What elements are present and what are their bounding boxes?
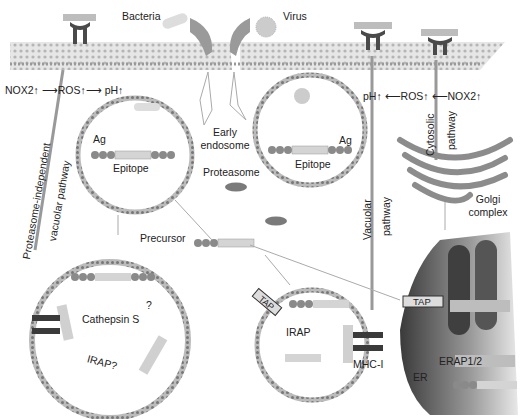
diagram-canvas: Bacteria Virus NOX2↑ ⟶ROS↑⟶ pH↑ pH↑ ⟵ROS… [0, 0, 522, 419]
er-epitope [453, 381, 517, 389]
epitope-lower-left [71, 273, 155, 281]
plasma-membrane [10, 42, 505, 70]
label-nox-left: NOX2↑ ⟶ROS↑⟶ pH↑ [5, 84, 123, 96]
epitope-vesicle [289, 300, 349, 308]
surface-receptor-1 [63, 14, 96, 44]
label-mhc: MHC-I [353, 358, 383, 370]
label-cathepsin: Cathepsin S [82, 313, 139, 325]
bacterium [161, 12, 189, 30]
proteasome [225, 183, 247, 192]
label-er: ER [413, 371, 428, 383]
label-epitope-right: Epitope [295, 158, 331, 170]
label-precursor: Precursor [140, 232, 186, 244]
label-vacuolar: Vacuolar [361, 199, 373, 240]
virus-particle [256, 17, 276, 37]
label-complex: complex [460, 206, 516, 218]
label-proteasome: Proteasome [203, 166, 260, 178]
label-golgi: Golgi [468, 193, 508, 205]
label-pathway-mid: pathway [380, 197, 392, 236]
epitope-right [268, 146, 352, 154]
label-irap: IRAP [286, 326, 311, 338]
label-nox-right: pH↑ ⟵ROS↑ ⟵NOX2↑ [363, 90, 481, 102]
label-tap-right: TAP [413, 296, 431, 308]
label-question: ? [146, 299, 152, 311]
label-cytosolic: Cytosolic [424, 113, 436, 156]
label-virus: Virus [283, 10, 307, 22]
label-bacteria: Bacteria [122, 10, 161, 22]
label-ag-left: Ag [93, 133, 106, 145]
label-ag-right: Ag [339, 134, 352, 146]
label-endosome: endosome [196, 139, 254, 151]
label-erap: ERAP1/2 [439, 355, 482, 367]
label-pathway-right: pathway [445, 111, 457, 150]
label-early: Early [205, 126, 245, 138]
epitope-left [91, 151, 175, 159]
precursor-peptide [194, 239, 254, 247]
label-epitope-left: Epitope [113, 162, 149, 174]
